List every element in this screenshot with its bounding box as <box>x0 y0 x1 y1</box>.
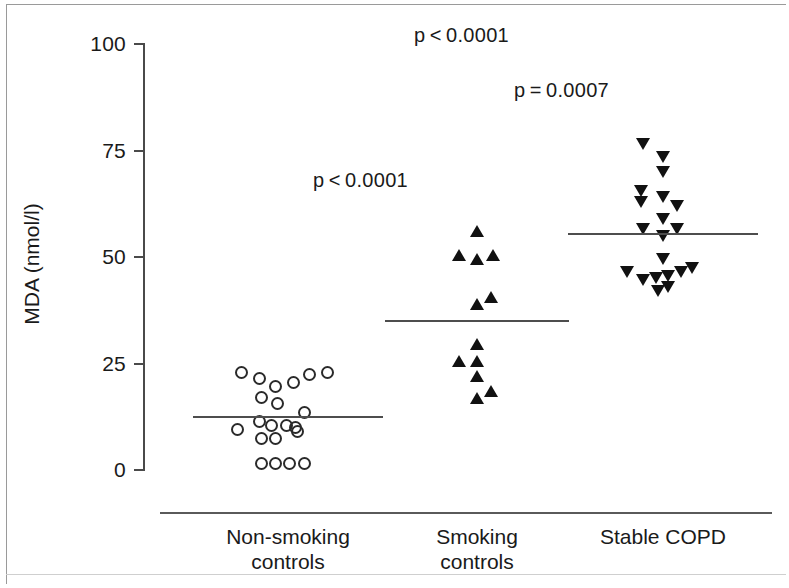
scatter-plot: 0255075100 MDA (nmol/l) p < 0.0001p = 0.… <box>0 0 789 588</box>
y-axis-tick-label-wrap: 100 <box>62 44 126 45</box>
data-point-triangle-up <box>484 385 498 397</box>
data-point-triangle-up <box>452 249 466 261</box>
y-axis-tick-label: 0 <box>62 459 126 480</box>
y-axis-tick-label: 25 <box>62 353 126 374</box>
data-point-circle <box>255 432 268 445</box>
data-point-triangle-down <box>670 200 684 212</box>
data-point-circle <box>271 397 284 410</box>
data-point-triangle-down <box>685 262 699 274</box>
x-axis-category-label: Stable COPD <box>553 524 773 549</box>
data-point-circle <box>269 457 282 470</box>
y-axis-tick-label: 50 <box>62 246 126 267</box>
data-point-circle <box>298 457 311 470</box>
y-axis-title: MDA (nmol/l) <box>20 169 44 359</box>
y-axis-tick <box>134 469 145 471</box>
x-axis-category-line1: Non-smoking <box>178 524 398 549</box>
group-mean-line <box>568 233 758 235</box>
data-point-circle <box>269 380 282 393</box>
data-point-circle <box>321 366 334 379</box>
data-point-circle <box>269 432 282 445</box>
data-point-circle <box>287 376 300 389</box>
data-point-triangle-up <box>470 338 484 350</box>
pvalue-annotation: p < 0.0001 <box>414 24 509 47</box>
data-point-triangle-down <box>656 151 670 163</box>
data-point-circle <box>303 368 316 381</box>
data-point-triangle-down <box>651 285 665 297</box>
y-axis-tick-label-wrap: 50 <box>62 257 126 258</box>
x-axis-category-line2: controls <box>178 549 398 574</box>
data-point-circle <box>255 391 268 404</box>
pvalue-annotation: p < 0.0001 <box>313 169 408 192</box>
data-point-triangle-down <box>656 253 670 265</box>
y-axis-tick-label-wrap: 0 <box>62 470 126 471</box>
data-point-circle <box>231 423 244 436</box>
data-point-triangle-up <box>484 291 498 303</box>
data-point-triangle-up <box>470 225 484 237</box>
data-point-triangle-down <box>656 166 670 178</box>
y-axis-tick <box>134 150 145 152</box>
data-point-triangle-up <box>470 253 484 265</box>
y-axis-tick <box>134 363 145 365</box>
data-point-circle <box>265 419 278 432</box>
data-point-triangle-up <box>470 298 484 310</box>
data-point-triangle-down <box>634 196 648 208</box>
y-axis-tick-label-wrap: 75 <box>62 151 126 152</box>
data-point-triangle-up <box>452 355 466 367</box>
y-axis-tick <box>134 43 145 45</box>
data-point-triangle-up <box>486 249 500 261</box>
y-axis-tick-label: 75 <box>62 140 126 161</box>
data-point-triangle-down <box>620 266 634 278</box>
x-axis-category-line2: controls <box>367 549 587 574</box>
data-point-circle <box>291 425 304 438</box>
group-mean-line <box>385 320 569 322</box>
data-point-triangle-down <box>656 230 670 242</box>
x-axis-category-line1: Stable COPD <box>553 524 773 549</box>
x-axis-line <box>160 512 772 514</box>
y-axis-tick-label: 100 <box>62 33 126 54</box>
data-point-triangle-up <box>470 370 484 382</box>
data-point-circle <box>283 457 296 470</box>
data-point-triangle-up <box>470 392 484 404</box>
data-point-circle <box>253 372 266 385</box>
data-point-circle <box>235 366 248 379</box>
data-point-triangle-down <box>636 138 650 150</box>
x-axis-category-label: Non-smokingcontrols <box>178 524 398 574</box>
y-axis-tick <box>134 256 145 258</box>
group-mean-line <box>193 416 383 418</box>
y-axis-tick-label-wrap: 25 <box>62 364 126 365</box>
data-point-circle <box>255 457 268 470</box>
pvalue-annotation: p = 0.0007 <box>514 79 609 102</box>
data-point-triangle-down <box>656 191 670 203</box>
data-point-triangle-down <box>656 213 670 225</box>
data-point-triangle-up <box>470 355 484 367</box>
figure-container: 0255075100 MDA (nmol/l) p < 0.0001p = 0.… <box>0 0 789 588</box>
